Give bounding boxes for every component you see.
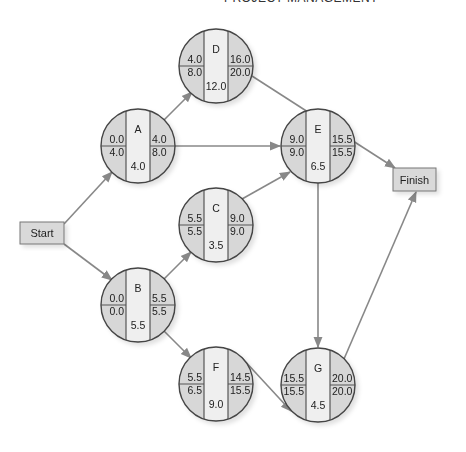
activity-node-a: A4.00.04.04.08.0: [101, 109, 175, 183]
node-label: A: [134, 123, 141, 135]
activity-node-c: C3.55.55.59.09.0: [179, 188, 253, 262]
earliest-start: 9.0: [289, 133, 304, 145]
node-duration: 6.5: [311, 160, 326, 172]
earliest-finish: 5.5: [152, 292, 167, 304]
activity-node-e: E6.59.09.015.515.5: [281, 109, 355, 183]
node-duration: 12.0: [206, 80, 227, 92]
earliest-finish: 16.0: [230, 53, 251, 65]
earliest-start: 0.0: [109, 292, 124, 304]
latest-start: 9.0: [289, 146, 304, 158]
earliest-start: 5.5: [187, 212, 202, 224]
node-duration: 5.5: [131, 319, 146, 331]
latest-finish: 20.0: [332, 385, 353, 397]
svg-text:Start: Start: [30, 227, 53, 239]
node-label: C: [212, 202, 220, 214]
edge-start-b: [64, 244, 112, 280]
latest-finish: 9.0: [230, 225, 245, 237]
latest-start: 8.0: [187, 66, 202, 78]
latest-start: 15.5: [284, 385, 305, 397]
node-label: D: [212, 43, 220, 55]
earliest-finish: 14.5: [230, 371, 251, 383]
earliest-start: 0.0: [109, 133, 124, 145]
edge-c-e: [242, 172, 290, 199]
start-box: Start: [20, 222, 64, 244]
latest-start: 0.0: [109, 305, 124, 317]
latest-start: 4.0: [109, 146, 124, 158]
node-label: F: [213, 361, 219, 373]
node-duration: 9.0: [209, 398, 224, 410]
latest-finish: 20.0: [230, 66, 251, 78]
earliest-start: 4.0: [187, 53, 202, 65]
earliest-finish: 4.0: [152, 133, 167, 145]
latest-finish: 15.5: [332, 146, 353, 158]
earliest-finish: 9.0: [230, 212, 245, 224]
activity-node-d: D12.04.08.016.020.0: [179, 29, 253, 103]
node-label: B: [134, 282, 141, 294]
edge-b-c: [164, 252, 191, 279]
earliest-finish: 15.5: [332, 133, 353, 145]
activity-node-f: F9.05.56.514.515.5: [179, 347, 253, 421]
network-diagram: Start Finish A4.00.04.04.08.0B5.50.00.05…: [0, 0, 466, 452]
latest-start: 6.5: [187, 384, 202, 396]
activity-node-g: G4.515.515.520.020.0: [281, 348, 355, 422]
latest-start: 5.5: [187, 225, 202, 237]
node-duration: 4.0: [131, 160, 146, 172]
activity-node-b: B5.50.00.05.55.5: [101, 268, 175, 342]
node-duration: 4.5: [311, 399, 326, 411]
edge-g-finish: [344, 192, 416, 359]
earliest-start: 15.5: [284, 372, 305, 384]
earliest-start: 5.5: [187, 371, 202, 383]
latest-finish: 15.5: [230, 384, 251, 396]
svg-text:Finish: Finish: [400, 174, 429, 186]
edge-b-f: [164, 331, 191, 358]
edge-a-d: [164, 92, 192, 120]
latest-finish: 5.5: [152, 305, 167, 317]
latest-finish: 8.0: [152, 146, 167, 158]
edge-start-a: [64, 172, 112, 224]
node-label: E: [314, 123, 321, 135]
finish-box: Finish: [393, 168, 436, 191]
earliest-finish: 20.0: [332, 372, 353, 384]
node-label: G: [314, 362, 322, 374]
node-duration: 3.5: [209, 239, 224, 251]
